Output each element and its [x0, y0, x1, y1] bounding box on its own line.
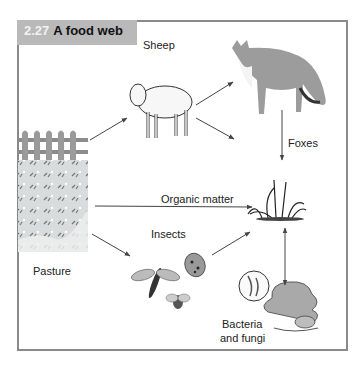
plant-icon: [248, 180, 306, 221]
fungi-label: and fungi: [220, 332, 265, 345]
insects-label: Insects: [151, 228, 186, 241]
foxes-label: Foxes: [288, 137, 318, 150]
sheep-icon: [130, 84, 192, 138]
sheep-label: Sheep: [143, 39, 175, 52]
fox-icon: [232, 40, 326, 114]
pasture-label: Pasture: [33, 265, 71, 278]
organic-matter-label: Organic matter: [161, 193, 234, 206]
insects-icon: [130, 250, 208, 309]
bacteria-label: Bacteria: [222, 318, 262, 331]
pasture-fence-icon: [18, 131, 88, 253]
food-web-diagram: [0, 0, 363, 368]
